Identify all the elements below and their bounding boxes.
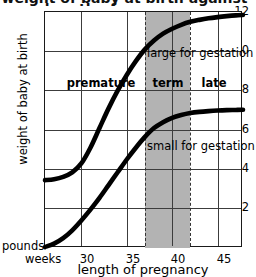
zone-label-late: late <box>192 76 236 90</box>
y-unit-label: pounds <box>2 241 44 252</box>
curve-small-for-gestation <box>45 110 243 247</box>
y-axis-title: weight of baby at birth <box>16 24 30 174</box>
zone-label-premature: premature <box>61 76 141 90</box>
plot-area: premature term late large for gestation … <box>44 11 242 247</box>
curve-large-for-gestation <box>45 15 243 180</box>
annotation-large-for-gestation: large for gestation <box>146 46 254 60</box>
zone-label-term: term <box>146 76 190 90</box>
x-axis-title: length of pregnancy <box>44 262 242 277</box>
annotation-small-for-gestation: small for gestation <box>146 139 256 153</box>
